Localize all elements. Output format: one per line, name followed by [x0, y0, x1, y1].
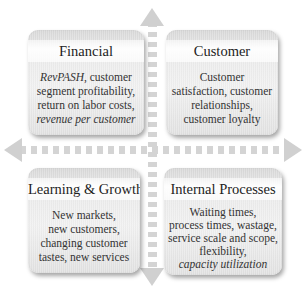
- quadrant-title: Learning & Growth: [28, 178, 140, 200]
- body-line: capacity utilization: [168, 258, 278, 271]
- quadrant-learning-growth: Learning & Growth New markets, new custo…: [28, 168, 140, 273]
- body-line: customer loyalty: [170, 112, 274, 126]
- body-line: segment profitability,: [32, 84, 140, 98]
- body-italic-text: RevPASH: [40, 71, 84, 83]
- quadrant-title: Customer: [166, 40, 278, 62]
- body-text: , customer: [84, 71, 132, 83]
- horizontal-dotted-axis: [20, 146, 286, 154]
- body-line: satisfaction, customer: [170, 84, 274, 98]
- body-line: RevPASH, customer: [32, 70, 140, 84]
- quadrant-body: Waiting times, process times, wastage, s…: [164, 206, 282, 271]
- body-line: changing customer: [32, 236, 136, 250]
- body-line: revenue per customer: [32, 112, 140, 126]
- quadrant-internal-processes: Internal Processes Waiting times, proces…: [164, 168, 282, 275]
- quadrant-body: RevPASH, customer segment profitability,…: [28, 70, 144, 126]
- body-line: Waiting times,: [168, 206, 278, 219]
- arrow-down-icon: [140, 268, 164, 286]
- body-line: service scale and scope,: [168, 232, 278, 245]
- body-line: new customers,: [32, 222, 136, 236]
- quadrant-body: New markets, new customers, changing cus…: [28, 208, 140, 264]
- quadrant-financial: Financial RevPASH, customer segment prof…: [28, 30, 144, 135]
- quadrant-body: Customer satisfaction, customer relation…: [166, 70, 278, 126]
- body-line: Customer: [170, 70, 274, 84]
- body-line: process times, wastage,: [168, 219, 278, 232]
- quadrant-title: Financial: [28, 40, 144, 62]
- body-line: return on labor costs,: [32, 98, 140, 112]
- body-line: New markets,: [32, 208, 136, 222]
- body-line: flexibility,: [168, 245, 278, 258]
- body-line: tastes, new services: [32, 250, 136, 264]
- quadrant-title: Internal Processes: [164, 178, 282, 200]
- body-line: relationships,: [170, 98, 274, 112]
- arrow-up-icon: [140, 8, 164, 26]
- arrow-left-icon: [4, 138, 22, 162]
- quadrant-customer: Customer Customer satisfaction, customer…: [166, 30, 278, 135]
- arrow-right-icon: [284, 138, 302, 162]
